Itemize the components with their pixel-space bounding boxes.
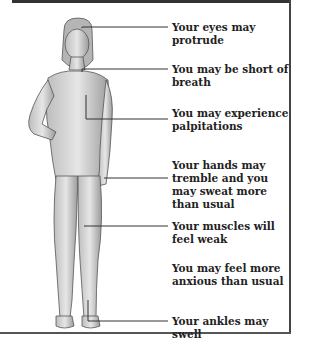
label-muscles: Your muscles will feel weak bbox=[172, 220, 290, 246]
label-anxious: You may feel more anxious than usual bbox=[172, 262, 290, 288]
label-ankles: Your ankles may swell bbox=[172, 315, 290, 341]
label-eyes: Your eyes may protrude bbox=[172, 21, 290, 47]
label-breath: You may be short of breath bbox=[172, 63, 290, 89]
label-hands: Your hands may tremble and you may sweat… bbox=[172, 159, 290, 211]
label-palpitations: You may experience palpitations bbox=[172, 107, 290, 133]
body-silhouette bbox=[29, 18, 113, 328]
